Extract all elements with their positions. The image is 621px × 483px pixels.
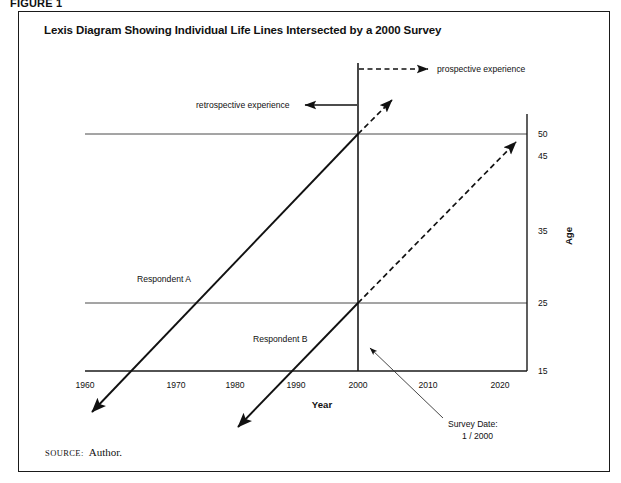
y-axis-tick-labels: 50 45 35 25 15 [538, 129, 548, 376]
y-tick-25: 25 [538, 298, 548, 308]
x-tick-1990: 1990 [286, 380, 305, 390]
source-key: SOURCE: [45, 448, 84, 458]
y-tick-45: 45 [538, 151, 548, 161]
survey-date-label-line1: Survey Date: [448, 419, 498, 429]
x-tick-2020: 2020 [490, 380, 509, 390]
x-tick-2000: 2000 [348, 380, 367, 390]
lifeline-respondent-b-projected [358, 142, 516, 303]
respondent-a-label: Respondent A [137, 274, 191, 284]
x-tick-2010: 2010 [418, 380, 437, 390]
y-tick-50: 50 [538, 129, 548, 139]
retrospective-experience-label: retrospective experience [196, 100, 290, 110]
prospective-experience-label: prospective experience [437, 64, 526, 74]
y-axis-title: Age [563, 227, 574, 245]
lexis-diagram-svg: prospective experience retrospective exp… [0, 0, 621, 483]
source-note: SOURCE:Author. [45, 446, 122, 458]
axes [85, 114, 527, 371]
lifeline-respondent-a-projected [358, 100, 392, 134]
lifeline-respondent-b-observed [238, 303, 358, 427]
x-tick-1970: 1970 [166, 380, 185, 390]
respondent-b-label: Respondent B [253, 334, 308, 344]
y-tick-15: 15 [538, 366, 548, 376]
x-tick-1960: 1960 [75, 380, 94, 390]
source-value: Author. [89, 446, 122, 458]
x-axis-tick-labels: 1960 1970 1980 1990 2000 2010 2020 [75, 380, 509, 390]
x-tick-1980: 1980 [225, 380, 244, 390]
x-axis-title: Year [312, 399, 333, 410]
survey-date-label-line2: 1 / 2000 [462, 431, 493, 441]
y-tick-35: 35 [538, 226, 548, 236]
